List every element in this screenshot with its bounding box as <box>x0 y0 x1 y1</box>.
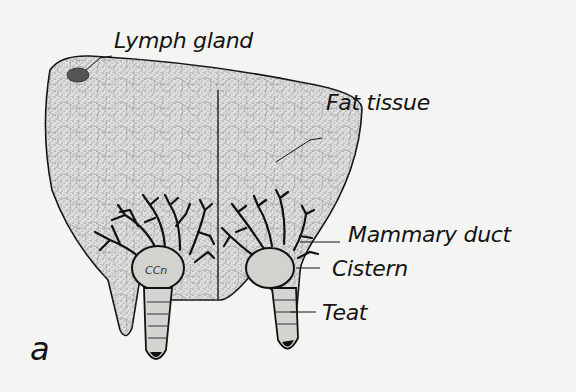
cistern-right <box>246 248 294 288</box>
label-lymph-gland: Lymph gland <box>114 28 253 53</box>
panel-letter: a <box>30 330 50 368</box>
cistern-inner-text: CCn <box>145 264 167 277</box>
label-mammary-duct: Mammary duct <box>348 222 511 247</box>
lymph-gland-shape <box>67 68 89 82</box>
label-teat: Teat <box>322 300 367 325</box>
udder-illustration: CCn <box>0 0 576 392</box>
udder-diagram: CCn <box>0 0 576 392</box>
label-fat-tissue: Fat tissue <box>326 90 430 115</box>
teat-left <box>144 288 172 359</box>
label-cistern: Cistern <box>332 256 408 281</box>
teat-right <box>272 288 298 349</box>
